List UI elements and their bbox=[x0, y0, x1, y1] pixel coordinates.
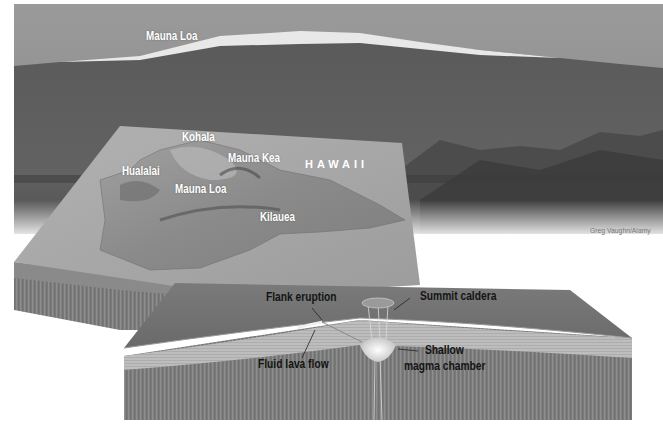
label-flank-eruption: Flank eruption bbox=[266, 290, 337, 304]
label-summit-caldera: Summit caldera bbox=[420, 289, 496, 303]
volcano-cross-section bbox=[124, 283, 632, 420]
map-label-hawaii: HAWAII bbox=[305, 158, 368, 170]
map-label-mauna-loa: Mauna Loa bbox=[175, 182, 226, 196]
map-label-hualalai: Hualalai bbox=[122, 164, 160, 178]
map-label-mauna-kea: Mauna Kea bbox=[228, 151, 280, 165]
volcano-figure: Mauna Loa Greg Vaughn/Alamy Kohala Mauna… bbox=[0, 0, 663, 437]
label-shallow: Shallow bbox=[425, 343, 464, 357]
label-magma-chamber: magma chamber bbox=[404, 359, 485, 373]
label-fluid-lava-flow: Fluid lava flow bbox=[258, 357, 329, 371]
photo-label-mauna-loa: Mauna Loa bbox=[146, 29, 197, 43]
map-label-kilauea: Kilauea bbox=[260, 210, 295, 224]
figure-artwork bbox=[0, 0, 663, 437]
photo-credit: Greg Vaughn/Alamy bbox=[590, 226, 651, 235]
map-label-kohala: Kohala bbox=[182, 130, 215, 144]
